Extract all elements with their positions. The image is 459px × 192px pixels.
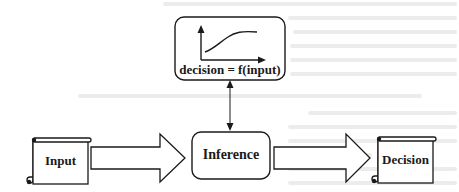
input-label: Input	[33, 153, 88, 169]
double-headed-connector	[227, 80, 234, 131]
block-arrow-inference-to-decision	[274, 134, 370, 182]
inference-diagram: decision = f(input) Input Inference Deci…	[0, 0, 459, 192]
inference-label: Inference	[192, 147, 270, 163]
block-arrow-input-to-inference	[91, 134, 185, 182]
decision-label: Decision	[378, 152, 433, 168]
function-box-label: decision = f(input)	[175, 62, 285, 78]
